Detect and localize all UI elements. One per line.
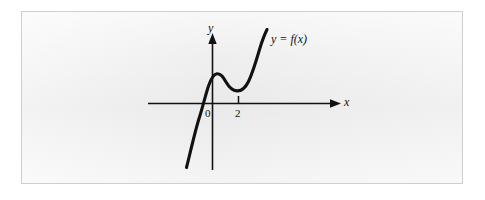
x-tick-label-2: 2	[235, 108, 241, 119]
curve-label: y = f(x)	[271, 33, 307, 45]
origin-label: 0	[205, 108, 211, 119]
figure-panel	[21, 11, 463, 184]
x-axis-label: x	[344, 96, 349, 108]
y-axis-label: y	[208, 22, 213, 34]
figure-screenshot: y x 0 2 y = f(x)	[0, 0, 485, 200]
